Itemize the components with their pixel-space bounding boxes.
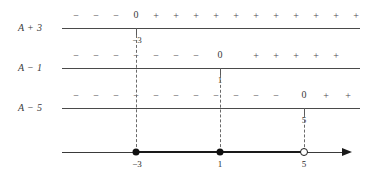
- sign-mark: +: [213, 11, 219, 21]
- row-axis-line-3: [62, 108, 360, 109]
- root-tick-2: [220, 68, 221, 75]
- sign-mark: +: [153, 11, 159, 21]
- sign-mark: −: [193, 51, 199, 61]
- sign-mark: −: [213, 91, 219, 101]
- sign-mark: +: [233, 11, 239, 21]
- sign-mark: −: [93, 11, 99, 21]
- sign-mark: −: [73, 91, 79, 101]
- sign-mark: −: [73, 51, 79, 61]
- sign-mark: −: [113, 91, 119, 101]
- sign-mark: −: [193, 91, 199, 101]
- sign-chart-figure: A + 3 − − − 0 + + + + + + + + + + + −3 A…: [0, 0, 376, 179]
- sign-mark: +: [333, 11, 339, 21]
- root-tick-3: [304, 108, 305, 115]
- sign-mark: +: [293, 11, 299, 21]
- sign-mark: +: [353, 11, 359, 21]
- row-axis-line-2: [62, 68, 360, 69]
- sign-mark: +: [313, 51, 319, 61]
- dashed-connector-1: [220, 75, 221, 152]
- root-tick-label-1: −3: [132, 36, 142, 45]
- sign-mark: −: [173, 51, 179, 61]
- sign-mark: +: [345, 91, 351, 101]
- sign-mark: +: [273, 51, 279, 61]
- sign-mark: −: [173, 91, 179, 101]
- endpoint-circle-5: [300, 148, 308, 156]
- row-axis-line-1: [62, 28, 360, 29]
- zero-mark-2: 0: [218, 50, 223, 60]
- sign-mark: +: [253, 11, 259, 21]
- sign-mark: −: [153, 91, 159, 101]
- endpoint-label-minus3: −3: [132, 160, 142, 169]
- sign-mark: +: [193, 11, 199, 21]
- row-label-a-plus-3: A + 3: [18, 22, 42, 33]
- sign-mark: −: [233, 91, 239, 101]
- sign-mark: −: [93, 91, 99, 101]
- sign-mark: +: [333, 51, 339, 61]
- sign-mark: −: [113, 11, 119, 21]
- sign-mark: −: [153, 51, 159, 61]
- root-tick-1: [136, 28, 137, 35]
- sign-mark: +: [313, 11, 319, 21]
- sign-mark: +: [173, 11, 179, 21]
- row-label-a-minus-1: A − 1: [18, 62, 42, 73]
- dashed-connector-5: [304, 115, 305, 152]
- endpoint-label-1: 1: [218, 160, 223, 169]
- sign-mark: +: [273, 11, 279, 21]
- endpoint-label-5: 5: [302, 160, 307, 169]
- sign-mark: −: [73, 11, 79, 21]
- dashed-connector-minus3: [136, 35, 137, 152]
- number-line-arrow-icon: [342, 148, 352, 156]
- zero-mark-1: 0: [134, 10, 139, 20]
- sign-mark: −: [273, 91, 279, 101]
- endpoint-dot-1: [217, 149, 224, 156]
- sign-mark: −: [113, 51, 119, 61]
- sign-mark: −: [93, 51, 99, 61]
- sign-mark: +: [293, 51, 299, 61]
- sign-mark: +: [253, 51, 259, 61]
- sign-mark: +: [323, 91, 329, 101]
- row-label-a-minus-5: A − 5: [18, 102, 42, 113]
- sign-mark: −: [253, 91, 259, 101]
- endpoint-dot-minus3: [133, 149, 140, 156]
- zero-mark-3: 0: [302, 90, 307, 100]
